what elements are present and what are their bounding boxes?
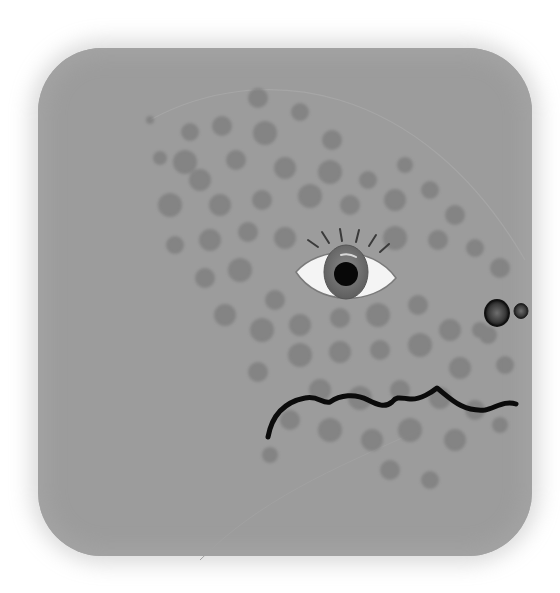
skin-spot — [496, 356, 514, 374]
skin-spot — [248, 88, 268, 108]
skin-spot — [408, 333, 432, 357]
skin-spot — [330, 308, 350, 328]
jaw-outline — [200, 430, 420, 560]
skin-spot — [153, 151, 167, 165]
skin-spot — [274, 157, 296, 179]
skin-spot — [228, 258, 252, 282]
skin-spot — [265, 290, 285, 310]
skin-spot — [444, 429, 466, 451]
skin-spot — [340, 195, 360, 215]
skin-spot — [492, 417, 508, 433]
skin-spot — [146, 116, 154, 124]
skin-spot — [490, 258, 510, 278]
skin-spot — [262, 447, 278, 463]
skin-spot — [199, 229, 221, 251]
skin-spot — [472, 322, 488, 338]
skin-spot — [380, 460, 400, 480]
skin-spot — [173, 150, 197, 174]
skin-spot — [318, 418, 342, 442]
skin-spot — [209, 194, 231, 216]
skin-spot — [466, 239, 484, 257]
skin-spot — [226, 150, 246, 170]
skin-spot — [428, 230, 448, 250]
skin-spot — [253, 121, 277, 145]
skin-spot — [322, 130, 342, 150]
skin-spot — [398, 418, 422, 442]
skin-spot — [384, 189, 406, 211]
skin-spot — [195, 268, 215, 288]
skin-spot — [158, 193, 182, 217]
skin-spot — [370, 340, 390, 360]
skin-spot — [166, 236, 184, 254]
skin-spot — [274, 227, 296, 249]
skin-spot — [359, 171, 377, 189]
skin-spot — [298, 184, 322, 208]
skin-spot — [439, 319, 461, 341]
skin-spot — [248, 362, 268, 382]
skin-spot — [238, 222, 258, 242]
skin-spot — [421, 471, 439, 489]
eye-icon — [296, 245, 396, 299]
skin-spot — [212, 116, 232, 136]
skin-spot — [252, 190, 272, 210]
skin-spot — [214, 304, 236, 326]
skin-spot — [189, 169, 211, 191]
skin-spot — [250, 318, 274, 342]
skin-spot — [421, 181, 439, 199]
skin-spot — [280, 410, 300, 430]
creature-illustration — [0, 0, 560, 593]
skin-spot — [361, 429, 383, 451]
illustration-canvas — [0, 0, 560, 593]
skin-spot — [397, 157, 413, 173]
skin-spot — [408, 295, 428, 315]
skin-spot — [288, 343, 312, 367]
skin-spot — [445, 205, 465, 225]
skin-spot — [318, 160, 342, 184]
skin-spot — [289, 314, 311, 336]
skin-spot — [291, 103, 309, 121]
nostrils-icon — [485, 300, 528, 326]
skin-spot — [366, 303, 390, 327]
skin-spot — [449, 357, 471, 379]
skin-spot — [329, 341, 351, 363]
skin-spot — [181, 123, 199, 141]
